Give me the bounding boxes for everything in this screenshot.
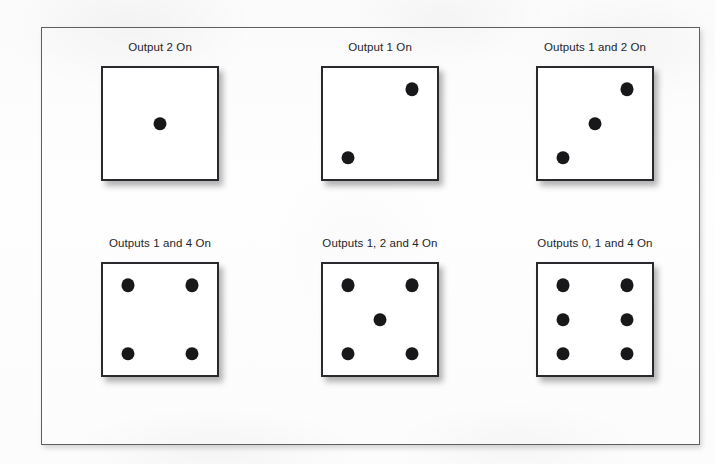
pip-top-left	[342, 278, 355, 292]
pip-top-right	[405, 82, 418, 96]
pip-bottom-right	[405, 347, 418, 361]
pip-top-right	[620, 278, 633, 292]
dice-caption-1: Output 2 On	[50, 40, 270, 54]
dice-caption-5: Outputs 1, 2 and 4 On	[270, 236, 490, 250]
dice-cell-3: Outputs 1 and 2 On	[485, 40, 705, 181]
pip-bottom-right	[185, 347, 198, 361]
pip-bottom-left	[557, 151, 570, 165]
pip-middle-left	[557, 313, 570, 327]
die-wrapper-6	[485, 262, 705, 377]
die-face-5	[321, 262, 439, 377]
pip-top-left	[122, 278, 135, 292]
figure-page: Output 2 On Output 1 On	[0, 0, 715, 464]
pip-bottom-right	[620, 347, 633, 361]
pip-bottom-left	[342, 151, 355, 165]
die-face-2	[321, 66, 439, 181]
die-wrapper-2	[270, 66, 490, 181]
pip-bottom-left	[557, 347, 570, 361]
pip-top-right	[620, 82, 633, 96]
pip-middle-right	[620, 313, 633, 327]
dice-grid: Output 2 On Output 1 On	[42, 28, 699, 444]
die-wrapper-5	[270, 262, 490, 377]
dice-caption-2: Output 1 On	[270, 40, 490, 54]
pip-top-left	[557, 278, 570, 292]
die-wrapper-1	[50, 66, 270, 181]
dice-cell-4: Outputs 1 and 4 On	[50, 236, 270, 377]
dice-cell-6: Outputs 0, 1 and 4 On	[485, 236, 705, 377]
dice-caption-6: Outputs 0, 1 and 4 On	[485, 236, 705, 250]
pip-center	[374, 313, 387, 327]
die-face-4	[101, 262, 219, 377]
die-face-1	[101, 66, 219, 181]
pip-bottom-left	[122, 347, 135, 361]
die-wrapper-3	[485, 66, 705, 181]
dice-cell-5: Outputs 1, 2 and 4 On	[270, 236, 490, 377]
pip-center	[589, 117, 602, 131]
pip-top-right	[405, 278, 418, 292]
die-face-3	[536, 66, 654, 181]
pip-bottom-left	[342, 347, 355, 361]
pip-center	[154, 117, 167, 131]
dice-caption-3: Outputs 1 and 2 On	[485, 40, 705, 54]
dice-caption-4: Outputs 1 and 4 On	[50, 236, 270, 250]
dice-cell-1: Output 2 On	[50, 40, 270, 181]
die-wrapper-4	[50, 262, 270, 377]
die-face-6	[536, 262, 654, 377]
pip-top-right	[185, 278, 198, 292]
dice-cell-2: Output 1 On	[270, 40, 490, 181]
figure-frame: Output 2 On Output 1 On	[41, 27, 700, 445]
